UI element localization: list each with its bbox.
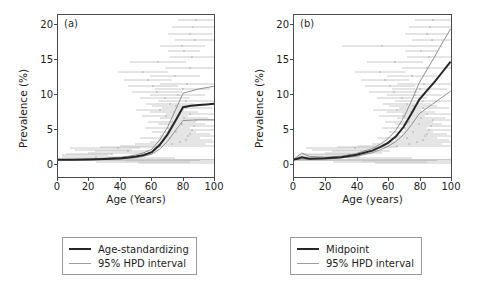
hpd-lower-curve-b bbox=[294, 91, 451, 160]
legend-item-hpd-a: 95% HPD interval bbox=[69, 256, 189, 270]
legend-b: Midpoint 95% HPD interval bbox=[290, 237, 422, 275]
legend-label-hpd-b: 95% HPD interval bbox=[326, 258, 414, 269]
figure-prevalence-by-age: Prevalence (%) 0 5 10 15 20 0 20 40 60 8… bbox=[0, 0, 484, 284]
hpd-upper-curve-b bbox=[294, 29, 451, 159]
legend-line-thin-icon bbox=[69, 263, 91, 264]
legend-label-bold-a: Age-standardizing bbox=[98, 244, 189, 255]
legend-item-bold-b: Midpoint bbox=[297, 242, 414, 256]
legend-item-bold-a: Age-standardizing bbox=[69, 242, 189, 256]
legend-line-bold-icon bbox=[69, 248, 91, 250]
legend-line-bold-icon bbox=[297, 248, 319, 250]
legend-label-bold-b: Midpoint bbox=[326, 244, 369, 255]
legend-label-hpd-a: 95% HPD interval bbox=[98, 258, 186, 269]
panel-a: Prevalence (%) 0 5 10 15 20 0 20 40 60 8… bbox=[0, 0, 242, 284]
x-axis-label-b: Age (years) bbox=[293, 193, 452, 205]
legend-a: Age-standardizing 95% HPD interval bbox=[62, 237, 197, 275]
study-intervals-b bbox=[294, 19, 451, 163]
study-intervals-a bbox=[58, 19, 214, 163]
legend-item-hpd-b: 95% HPD interval bbox=[297, 256, 414, 270]
legend-line-thin-icon bbox=[297, 263, 319, 264]
panel-b: Prevalence (%) 0 5 10 15 20 0 20 40 60 8… bbox=[242, 0, 484, 284]
x-axis-label-a: Age (Years) bbox=[57, 193, 215, 205]
